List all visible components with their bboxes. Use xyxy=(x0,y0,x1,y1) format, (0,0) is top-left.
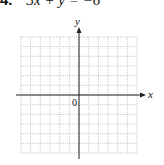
coordinate-grid xyxy=(0,0,164,165)
axes xyxy=(16,30,143,159)
y-axis-label: y xyxy=(75,15,80,27)
x-axis-label: x xyxy=(148,88,153,100)
y-axis-arrow-icon xyxy=(77,27,82,33)
origin-label: 0 xyxy=(72,97,77,108)
x-axis-arrow-icon xyxy=(140,93,146,98)
